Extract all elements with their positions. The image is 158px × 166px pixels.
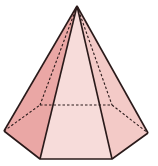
hexagonal-pyramid-diagram — [0, 0, 158, 166]
